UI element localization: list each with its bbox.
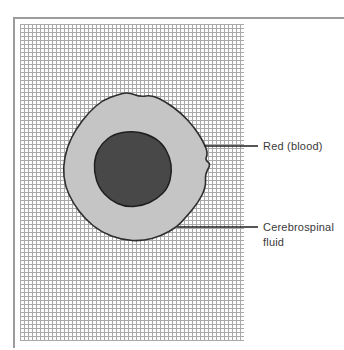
blood-region <box>94 132 171 207</box>
label-csf-line1: Cerebrospinal <box>263 221 334 233</box>
figure: Red (blood) Cerebrospinal fluid <box>0 0 344 350</box>
label-csf-line2: fluid <box>263 236 284 248</box>
diagram-svg <box>0 0 344 350</box>
label-red-blood: Red (blood) <box>263 139 323 154</box>
label-red-blood-text: Red (blood) <box>263 140 323 152</box>
label-cerebrospinal-fluid: Cerebrospinal fluid <box>263 220 334 250</box>
